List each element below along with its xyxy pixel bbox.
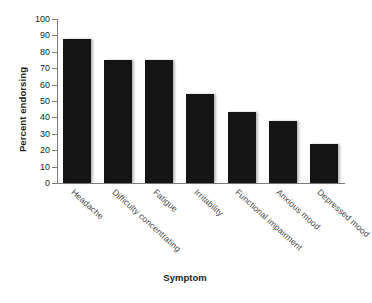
- bar: [269, 121, 297, 183]
- y-tick-label: 50: [40, 96, 50, 106]
- y-axis-line: [57, 19, 58, 184]
- bar: [104, 60, 132, 183]
- bar: [310, 144, 338, 183]
- bar: [63, 39, 91, 183]
- y-tick-mark: [52, 52, 57, 53]
- y-tick-label: 0: [45, 178, 50, 188]
- x-axis-line: [57, 183, 345, 184]
- y-tick-mark: [52, 85, 57, 86]
- y-tick-mark: [52, 101, 57, 102]
- bar: [145, 60, 173, 183]
- x-tick-label: Headache: [69, 187, 105, 221]
- bar: [228, 112, 256, 183]
- y-tick-mark: [52, 68, 57, 69]
- plot-area: 0102030405060708090100 HeadacheDifficult…: [57, 19, 345, 183]
- y-tick-mark: [52, 150, 57, 151]
- x-tick-label: Depressed mood: [316, 187, 372, 239]
- x-tick-label: Fatigue: [151, 187, 180, 214]
- y-tick-label: 70: [40, 63, 50, 73]
- x-tick-label: Difficulty concentrating: [110, 187, 183, 254]
- y-tick-mark: [52, 19, 57, 20]
- y-tick-label: 90: [40, 30, 50, 40]
- x-tick-label: Irritability: [192, 187, 225, 218]
- y-tick-label: 10: [40, 162, 50, 172]
- y-tick-label: 30: [40, 129, 50, 139]
- y-tick-mark: [52, 117, 57, 118]
- y-tick-label: 40: [40, 112, 50, 122]
- x-tick-label: Functional impairment: [233, 187, 304, 252]
- bar: [186, 94, 214, 183]
- x-axis-title: Symptom: [0, 272, 370, 283]
- y-tick-mark: [52, 183, 57, 184]
- y-tick-mark: [52, 35, 57, 36]
- y-tick-mark: [52, 167, 57, 168]
- y-tick-label: 80: [40, 47, 50, 57]
- y-axis-title: Percent endorsing: [17, 40, 28, 180]
- y-tick-label: 100: [35, 14, 50, 24]
- y-tick-label: 20: [40, 145, 50, 155]
- y-tick-mark: [52, 134, 57, 135]
- y-tick-label: 60: [40, 80, 50, 90]
